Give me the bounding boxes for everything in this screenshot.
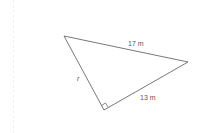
hypotenuse-label: 17 m — [128, 40, 144, 47]
bottom-leg-label: 13 m — [140, 94, 156, 101]
triangle — [64, 36, 188, 110]
triangle-diagram: 17 m 13 m r — [0, 0, 201, 133]
left-leg-label: r — [77, 75, 80, 82]
